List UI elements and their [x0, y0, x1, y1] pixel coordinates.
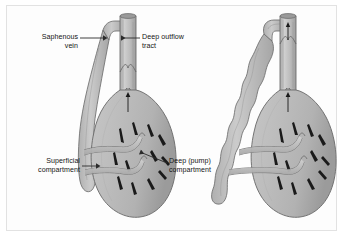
label-deep-pump-compartment: Deep (pump) compartment — [169, 157, 253, 174]
label-deep-pump-compartment-line2: compartment — [169, 166, 253, 175]
label-superficial-compartment-line1: Superficial — [4, 157, 80, 166]
label-saphenous-vein-line2: vein — [12, 42, 78, 51]
label-superficial-compartment-line2: compartment — [4, 166, 80, 175]
deep-tract-lumen-varicose — [280, 14, 296, 19]
label-deep-outflow-tract-line2: tract — [142, 42, 222, 51]
deep-pump-compartment-varicose — [251, 90, 336, 217]
deep-tract-lumen-normal — [120, 14, 136, 19]
label-deep-pump-compartment-line1: Deep (pump) — [169, 157, 253, 166]
deep-outflow-tract-normal — [120, 16, 136, 92]
label-deep-outflow-tract: Deep outflow tract — [142, 33, 222, 50]
venous-pump-figure: Saphenous vein Deep outflow tract Superf… — [0, 0, 345, 238]
panel-varicose-limb — [212, 14, 336, 218]
label-deep-outflow-tract-line1: Deep outflow — [142, 33, 222, 42]
label-saphenous-vein-line1: Saphenous — [12, 33, 78, 42]
label-superficial-compartment: Superficial compartment — [4, 157, 80, 174]
label-saphenous-vein: Saphenous vein — [12, 33, 78, 50]
deep-pump-compartment-normal — [91, 90, 176, 217]
